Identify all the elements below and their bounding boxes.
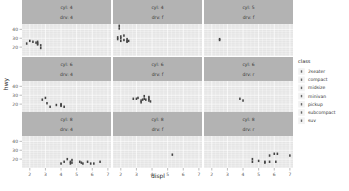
faceted-scatter-chart: cyl: 4drv: 4203040cyl: 4drv: fcyl: 5drv:… <box>0 0 349 191</box>
data-point <box>35 41 37 43</box>
strip-label: drv: r <box>243 72 255 77</box>
data-point <box>32 41 34 43</box>
data-point <box>123 34 125 36</box>
data-point <box>264 161 266 163</box>
data-point <box>63 106 65 108</box>
panel-background <box>204 81 293 113</box>
facet-strip <box>22 112 111 136</box>
data-point <box>90 162 92 164</box>
y-axis-title: hwy <box>2 77 10 90</box>
strip-label: drv: f <box>152 15 164 20</box>
panel-background <box>22 136 111 168</box>
data-point <box>136 98 138 100</box>
x-tick-label: 2 <box>28 172 31 177</box>
data-point <box>145 98 147 100</box>
x-tick-label: 6 <box>91 172 94 177</box>
data-point <box>252 161 254 163</box>
facet-panel: cyl: 4drv: f <box>113 0 202 56</box>
data-point <box>118 27 120 29</box>
facet-strip <box>22 57 111 81</box>
data-point <box>49 106 51 108</box>
facet-strip <box>113 57 202 81</box>
data-point <box>252 158 254 160</box>
data-point <box>273 153 275 155</box>
strip-label: cyl: 5 <box>242 5 254 10</box>
data-point <box>275 161 277 163</box>
data-point <box>132 98 134 100</box>
data-point <box>128 40 130 42</box>
facet-panel: cyl: 4drv: 4203040 <box>12 0 111 56</box>
data-point <box>150 100 152 102</box>
data-point <box>242 99 244 101</box>
strip-label: cyl: 6 <box>151 62 163 67</box>
data-point <box>148 99 150 101</box>
y-tick-label: 40 <box>12 139 18 144</box>
strip-label: drv: r <box>243 127 255 132</box>
data-point <box>70 162 72 164</box>
legend-key-glyph <box>301 87 302 89</box>
panel-background <box>204 136 293 168</box>
data-point <box>29 40 31 42</box>
facet-strip <box>22 0 111 24</box>
data-point <box>66 158 68 160</box>
strip-label: cyl: 8 <box>242 117 254 122</box>
legend-key-glyph <box>301 120 302 122</box>
x-tick-label: 7 <box>106 172 109 177</box>
y-tick-label: 20 <box>12 45 18 50</box>
data-point <box>46 102 48 104</box>
legend-item-label: midsize <box>308 85 325 90</box>
data-point <box>99 161 101 163</box>
data-point <box>123 39 125 41</box>
data-point <box>79 161 81 163</box>
data-point <box>120 37 122 39</box>
y-tick-label: 40 <box>12 27 18 32</box>
panel-background <box>113 136 202 168</box>
data-point <box>120 40 122 42</box>
data-point <box>37 43 39 45</box>
facet-panel: cyl: 8drv: r234567 <box>204 112 293 177</box>
data-point <box>40 47 42 49</box>
legend: class2seatercompactmidsizeminivanpickups… <box>298 58 336 124</box>
data-point <box>60 162 62 164</box>
data-point <box>71 161 73 163</box>
y-tick-label: 20 <box>12 157 18 162</box>
y-tick-label: 40 <box>12 84 18 89</box>
strip-label: drv: f <box>243 15 255 20</box>
data-point <box>117 36 119 38</box>
facet-strip <box>113 112 202 136</box>
data-point <box>60 103 62 105</box>
strip-label: drv: f <box>152 127 164 132</box>
data-point <box>140 101 142 103</box>
data-point <box>45 97 47 99</box>
x-tick-label: 2 <box>119 172 122 177</box>
x-tick-label: 3 <box>135 172 138 177</box>
data-point <box>219 39 221 41</box>
legend-item-label: compact <box>308 77 328 82</box>
panel-background <box>113 81 202 113</box>
data-point <box>81 161 83 163</box>
x-tick-label: 6 <box>273 172 276 177</box>
data-point <box>269 154 271 156</box>
strip-label: cyl: 4 <box>60 5 72 10</box>
facet-panel: cyl: 6drv: f <box>113 57 202 113</box>
legend-item-label: subcompact <box>308 110 336 115</box>
data-point <box>142 98 144 100</box>
x-tick-label: 3 <box>226 172 229 177</box>
data-point <box>172 153 174 155</box>
facet-strip <box>204 112 293 136</box>
legend-title: class <box>298 58 311 64</box>
x-tick-label: 2 <box>210 172 213 177</box>
x-tick-label: 6 <box>182 172 185 177</box>
strip-label: cyl: 8 <box>60 117 72 122</box>
legend-item-label: minivan <box>308 94 326 99</box>
data-point <box>148 96 150 98</box>
legend-key-glyph <box>301 103 302 105</box>
facet-panel: cyl: 8drv: 4203040234567 <box>12 112 111 177</box>
panel-background <box>22 81 111 113</box>
legend-key-glyph <box>301 79 302 81</box>
x-tick-label: 5 <box>257 172 260 177</box>
data-point <box>93 162 95 164</box>
data-point <box>239 98 241 100</box>
strip-label: drv: 4 <box>60 127 73 132</box>
x-tick-label: 7 <box>288 172 291 177</box>
